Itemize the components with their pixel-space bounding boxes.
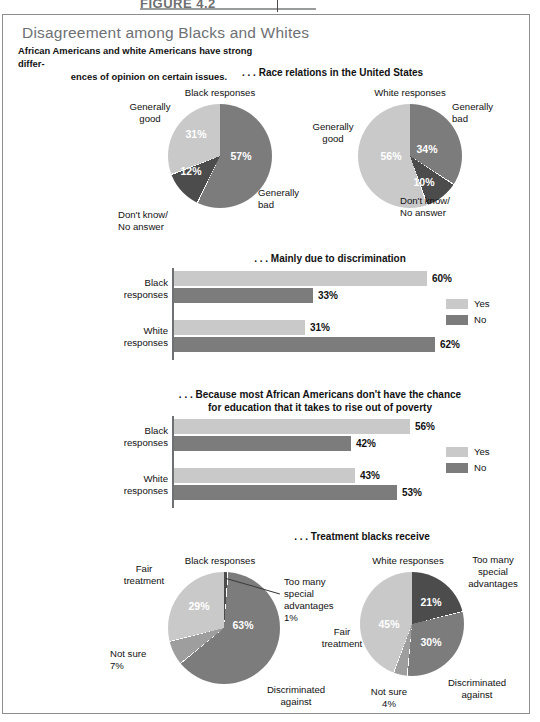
pie-label-dont-know-white: Don't know/No answer xyxy=(400,195,492,219)
pie-label-generally-good-black: Generallygood xyxy=(120,101,180,125)
bar-group-label-white-2: Whiteresponses xyxy=(102,473,168,497)
bar-white-no-2 xyxy=(174,485,397,500)
pie-label-discriminated-black: Discriminatedagainst xyxy=(254,684,338,708)
bar-value-white-no-2: 53% xyxy=(402,487,422,498)
pie-slice-value-31: 31% xyxy=(180,128,212,140)
pie-slice-value-34: 34% xyxy=(410,143,444,155)
chart-label-white-responses-treatment: White responses xyxy=(358,555,458,567)
bar-white-yes-2 xyxy=(174,468,355,483)
chart-label-black-responses-race: Black responses xyxy=(170,87,270,99)
section-title-mainly-discrimination: . . . Mainly due to discrimination xyxy=(180,252,480,265)
chart-label-black-responses-treatment: Black responses xyxy=(170,555,270,567)
section-title-education-line2: for education that it takes to rise out … xyxy=(208,402,432,413)
pie-slice-value-56: 56% xyxy=(374,150,408,162)
figure-subtitle-line1: African Americans and white Americans ha… xyxy=(18,44,280,70)
pie-slice-value-7: 7% xyxy=(110,660,124,671)
pie-label-generally-good-white: Generallygood xyxy=(303,121,363,145)
figure-number-tab: FIGURE 4.2 xyxy=(140,0,316,10)
bar-value-white-yes-1: 31% xyxy=(310,322,330,333)
legend-swatch-no-2 xyxy=(446,463,468,473)
bar-value-black-no-2: 42% xyxy=(356,438,376,449)
pie-label-not-sure-black: Not sure7% xyxy=(110,648,172,672)
bar-value-black-no-1: 33% xyxy=(318,290,338,301)
bar-value-black-yes-1: 60% xyxy=(432,273,452,284)
bar-group-label-black-1: Blackresponses xyxy=(102,277,168,301)
pie-label-fair-treatment-white: Fairtreatment xyxy=(310,626,374,650)
legend-swatch-yes-1 xyxy=(446,299,468,309)
bar-black-no-1 xyxy=(174,288,313,303)
pie-slice-value-12: 12% xyxy=(176,165,206,177)
bar-value-black-yes-2: 56% xyxy=(415,421,435,432)
pie-slice-value-30: 30% xyxy=(414,636,448,648)
legend-swatch-no-1 xyxy=(446,315,468,325)
legend-label-no-1: No xyxy=(474,314,486,325)
bar-group-label-black-2: Blackresponses xyxy=(102,425,168,449)
figure-subtitle: African Americans and white Americans ha… xyxy=(18,44,280,83)
bar-value-white-yes-2: 43% xyxy=(360,470,380,481)
section-title-race-relations: . . . Race relations in the United State… xyxy=(242,66,423,79)
figure-subtitle-line2: ences of opinion on certain issues. xyxy=(18,70,280,83)
pie-slice-value-63: 63% xyxy=(226,619,260,631)
pie-label-too-many-white: Too manyspecialadvantages xyxy=(456,554,530,590)
section-title-education-chance: . . . Because most African Americans don… xyxy=(155,388,485,414)
bar-group-label-white-1: Whiteresponses xyxy=(102,325,168,349)
section-title-treatment: . . . Treatment blacks receive xyxy=(262,530,462,543)
pie-slice-value-45: 45% xyxy=(372,618,406,630)
page-title: Disagreement among Blacks and Whites xyxy=(22,24,309,42)
legend-label-no-2: No xyxy=(474,462,486,473)
pie-slice-value-1: 1% xyxy=(284,612,298,623)
pie-slice-value-21: 21% xyxy=(414,596,448,608)
section-title-education-line1: . . . Because most African Americans don… xyxy=(179,389,461,400)
bar-value-white-no-1: 62% xyxy=(440,339,460,350)
pie-slice-value-29: 29% xyxy=(182,600,216,612)
bar-black-no-2 xyxy=(174,436,351,451)
pie-label-generally-bad-black: Generallybad xyxy=(258,187,320,211)
pie-label-discriminated-white: Discriminatedagainst xyxy=(434,677,520,701)
pie-label-too-many-black: Too manyspecialadvantages1% xyxy=(284,576,358,624)
chart-label-white-responses-race: White responses xyxy=(360,87,460,99)
pie-label-fair-treatment-black: Fairtreatment xyxy=(112,563,176,587)
margin-rule xyxy=(277,0,278,12)
legend-label-yes-2: Yes xyxy=(474,446,490,457)
legend-label-yes-1: Yes xyxy=(474,298,490,309)
bar-white-no-1 xyxy=(174,337,435,352)
pie-label-not-sure-white: Not sure4% xyxy=(358,686,420,710)
bar-black-yes-1 xyxy=(174,271,427,286)
pie-label-generally-bad-white: Generallybad xyxy=(452,101,516,125)
bar-white-yes-1 xyxy=(174,320,305,335)
bar-black-yes-2 xyxy=(174,419,410,434)
legend-swatch-yes-2 xyxy=(446,447,468,457)
pie-slice-value-4: 4% xyxy=(382,698,396,709)
pie-label-dont-know-black: Don't know/No answer xyxy=(118,209,210,233)
pie-slice-value-10: 10% xyxy=(408,176,440,188)
pie-slice-value-57: 57% xyxy=(224,150,258,162)
